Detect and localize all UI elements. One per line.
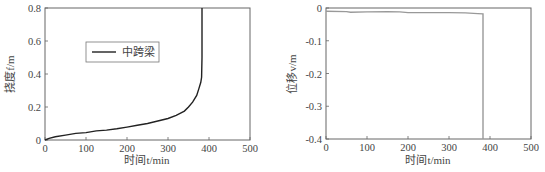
plot-frame <box>326 8 531 139</box>
x-tick-label: 200 <box>400 142 416 153</box>
y-tick-label: -0.3 <box>305 101 322 112</box>
x-tick-label: 200 <box>119 143 135 154</box>
y-tick-label: -0.2 <box>305 69 322 80</box>
x-axis-title: 时间t/min <box>124 154 170 166</box>
deflection-chart: 0100200300400500 00.20.40.60.8 中跨梁 时间t/m… <box>0 0 270 172</box>
y-tick-label: 0 <box>36 135 41 146</box>
y-axis-ticks: 0-0.1-0.2-0.3-0.4 <box>305 3 329 145</box>
y-axis-title: 挠度f/m <box>3 55 16 93</box>
y-tick-label: 0.8 <box>28 3 41 14</box>
x-tick-label: 100 <box>78 143 94 154</box>
y-axis-title: 位移v/m <box>285 54 298 94</box>
y-tick-label: -0.1 <box>305 36 322 47</box>
deflection-chart-svg: 0100200300400500 00.20.40.60.8 中跨梁 时间t/m… <box>0 0 270 172</box>
x-tick-label: 500 <box>523 142 539 153</box>
legend: 中跨梁 <box>86 42 159 62</box>
x-tick-label: 100 <box>359 142 375 153</box>
y-tick-label: 0.4 <box>28 69 42 80</box>
x-tick-label: 500 <box>242 143 258 154</box>
displacement-chart-svg: 0100200300400500 0-0.1-0.2-0.3-0.4 时间t/m… <box>270 0 545 172</box>
x-tick-label: 300 <box>160 143 176 154</box>
displacement-line <box>326 11 483 139</box>
y-tick-label: 0.6 <box>28 36 41 47</box>
y-tick-label: 0.2 <box>28 102 41 113</box>
x-tick-label: 0 <box>42 143 47 154</box>
x-tick-label: 300 <box>441 142 457 153</box>
x-tick-label: 400 <box>201 143 217 154</box>
x-tick-label: 0 <box>323 142 328 153</box>
midspan-beam-line <box>45 8 202 140</box>
displacement-chart: 0100200300400500 0-0.1-0.2-0.3-0.4 时间t/m… <box>270 0 545 172</box>
legend-label: 中跨梁 <box>122 45 155 58</box>
y-tick-label: 0 <box>317 3 322 14</box>
x-tick-label: 400 <box>482 142 498 153</box>
plot-frame <box>45 8 250 140</box>
y-tick-label: -0.4 <box>305 134 322 145</box>
x-axis-title: 时间t/min <box>405 154 451 166</box>
